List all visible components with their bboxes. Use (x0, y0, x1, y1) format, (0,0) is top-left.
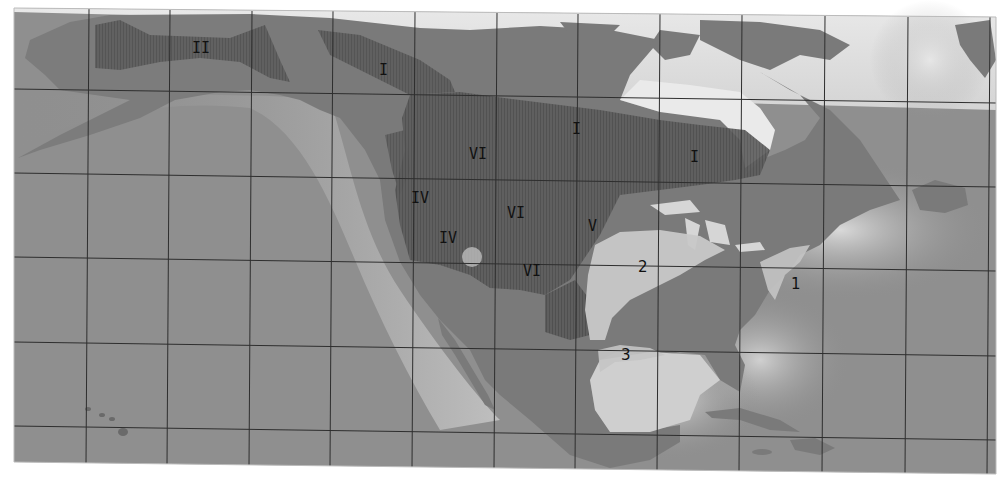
label-region-3: 3 (621, 346, 631, 364)
label-region-VI-south: VI (523, 262, 541, 280)
label-region-I-east: I (690, 148, 699, 166)
label-region-VI-central: VI (507, 204, 525, 222)
jamaica (752, 449, 772, 455)
label-region-VI-north: VI (469, 145, 487, 163)
label-region-IV-south: IV (439, 229, 457, 247)
label-region-V: V (588, 217, 597, 235)
label-region-II: I (379, 61, 388, 79)
north-america-map: II I I I VI IV VI V IV VI 2 1 3 (0, 0, 1004, 482)
label-region-1: 1 (791, 275, 801, 293)
label-region-III: II (192, 39, 210, 57)
label-region-IV-north: IV (411, 189, 429, 207)
label-region-2: 2 (638, 258, 648, 276)
label-region-I: I (572, 120, 581, 138)
